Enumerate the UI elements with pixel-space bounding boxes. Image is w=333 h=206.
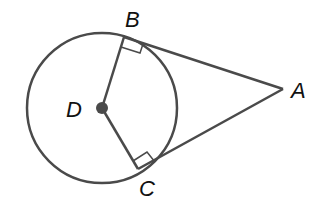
label-A: A xyxy=(289,78,306,103)
label-D: D xyxy=(66,97,82,122)
radius-DC xyxy=(102,108,138,169)
label-B: B xyxy=(125,7,140,32)
tangent-segment-AB xyxy=(124,37,283,89)
tangent-segment-AC xyxy=(138,89,283,169)
right-angle-mark-B xyxy=(121,44,143,53)
geometry-diagram: B A D C xyxy=(0,0,333,206)
radius-DB xyxy=(102,37,124,108)
center-point-D xyxy=(96,102,108,114)
label-C: C xyxy=(139,176,155,201)
